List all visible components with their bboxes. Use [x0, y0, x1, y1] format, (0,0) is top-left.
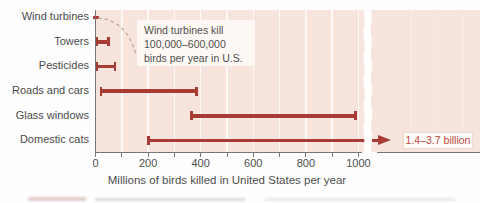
x-axis-tick-900 — [332, 153, 333, 157]
bar-pesticides-start-cap — [96, 62, 99, 71]
x-axis-line — [95, 152, 362, 153]
x-axis-tick-500 — [227, 153, 228, 157]
x-axis-title: Millions of birds killed in United State… — [102, 174, 352, 186]
annotation-note: Wind turbines kill 100,000–600,000 birds… — [137, 20, 255, 66]
bar-glass-windows-start-cap — [190, 111, 193, 120]
bar-glass-windows — [191, 114, 355, 118]
gridline-700 — [279, 10, 281, 152]
gridline-1200 — [410, 10, 412, 152]
cropped-caption-remnant — [95, 198, 245, 201]
figure: Wind turbines kill 100,000–600,000 birds… — [0, 0, 480, 203]
cropped-caption-remnant — [265, 198, 455, 201]
category-label-roads-and-cars: Roads and cars — [0, 84, 89, 96]
category-label-pesticides: Pesticides — [0, 59, 89, 71]
x-tick-label-400: 400 — [181, 157, 221, 169]
bar-roads-and-cars-start-cap — [100, 87, 103, 96]
cropped-caption-remnant — [28, 197, 86, 201]
gridline-1300 — [437, 10, 439, 152]
bar-roads-and-cars-end-cap — [195, 87, 198, 96]
bar-roads-and-cars — [101, 89, 197, 93]
gridline-800 — [305, 10, 307, 152]
x-tick-label-600: 600 — [233, 157, 273, 169]
bar-domestic-cats-start-cap — [147, 136, 150, 145]
category-label-towers: Towers — [0, 35, 89, 47]
x-tick-label-200: 200 — [128, 157, 168, 169]
x-tick-label-800: 800 — [286, 157, 326, 169]
x-axis-line-after-break — [377, 152, 480, 153]
overflow-value-label: 1.4–3.7 billion — [403, 132, 473, 149]
bar-domestic-cats — [148, 139, 379, 143]
x-axis-tick-100 — [121, 153, 122, 157]
x-tick-label-1000: 1000 — [339, 157, 379, 169]
x-tick-label-0: 0 — [76, 157, 116, 169]
category-label-domestic-cats: Domestic cats — [0, 133, 89, 145]
category-label-glass-windows: Glass windows — [0, 109, 89, 121]
x-axis-tick-300 — [174, 153, 175, 157]
bar-pesticides — [97, 65, 115, 69]
overflow-arrow-icon — [378, 135, 391, 145]
bar-glass-windows-end-cap — [354, 111, 357, 120]
category-label-wind-turbines: Wind turbines — [0, 10, 89, 22]
bar-pesticides-end-cap — [114, 62, 117, 71]
gridline-1400 — [463, 10, 465, 152]
x-axis-tick-700 — [279, 153, 280, 157]
gridline-900 — [331, 10, 333, 152]
axis-break-tear — [360, 5, 376, 157]
